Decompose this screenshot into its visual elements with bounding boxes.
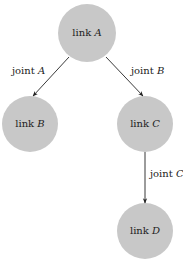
- node-link-b: link B: [2, 96, 58, 152]
- svg-text:link B: link B: [15, 118, 44, 129]
- node-link-c: link C: [117, 96, 173, 152]
- node-link-d: link D: [117, 203, 173, 259]
- svg-text:joint A: joint A: [11, 65, 45, 76]
- svg-text:link A: link A: [72, 27, 101, 38]
- svg-text:link C: link C: [130, 118, 160, 129]
- kinematic-tree-diagram: link A link B link C link D joint A join…: [0, 0, 183, 266]
- edge-joint-c: joint C: [145, 152, 183, 203]
- edge-joint-b: joint B: [106, 57, 164, 96]
- svg-text:joint C: joint C: [149, 168, 183, 179]
- svg-text:joint B: joint B: [130, 65, 164, 76]
- svg-text:link D: link D: [130, 225, 160, 236]
- edge-joint-a: joint A: [11, 57, 69, 96]
- node-link-a: link A: [58, 4, 116, 62]
